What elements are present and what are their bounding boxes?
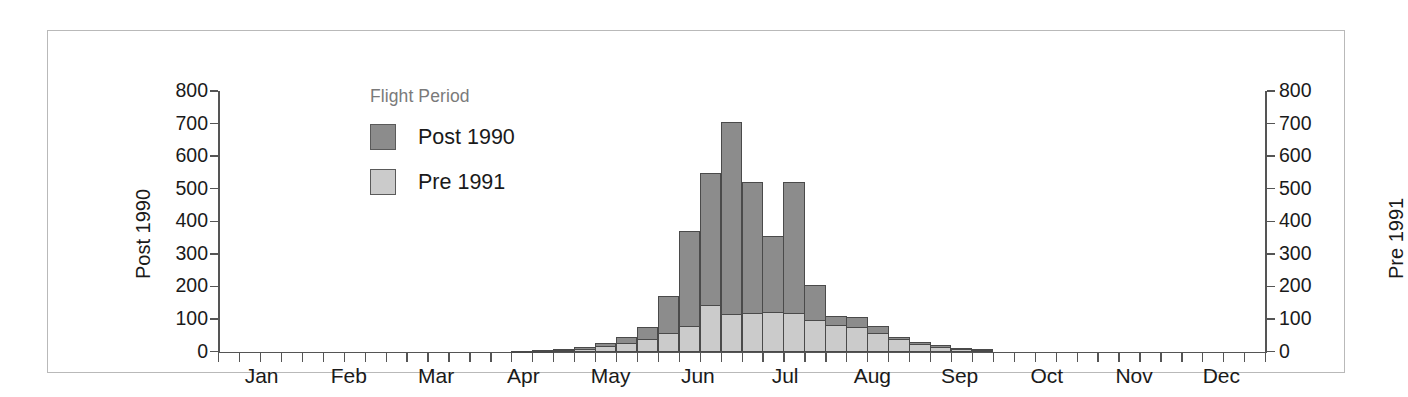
x-axis-tick [1118, 353, 1119, 362]
left-axis-tick-label: 200 [148, 276, 208, 296]
x-axis-month-label: Mar [418, 364, 454, 388]
x-axis-tick [1035, 353, 1036, 362]
x-axis-month-label: Jul [772, 364, 799, 388]
right-axis-tick-label: 400 [1279, 211, 1312, 231]
x-axis-tick [553, 353, 554, 362]
x-axis-month-label: Dec [1203, 364, 1240, 388]
legend-item-pre-1991[interactable]: Pre 1991 [370, 169, 590, 195]
x-axis-tick [281, 353, 282, 362]
right-axis-tick-label: 0 [1279, 342, 1290, 362]
x-axis-month-label: Apr [507, 364, 540, 388]
legend-swatch-pre-1991 [370, 169, 396, 195]
x-axis-tick [386, 353, 387, 362]
x-axis-tick [742, 353, 743, 362]
x-axis-tick [637, 353, 638, 362]
right-axis-tick-label: 500 [1279, 179, 1312, 199]
bar-pre [511, 351, 533, 353]
x-axis-tick [218, 353, 219, 362]
left-axis-tick-label: 600 [148, 146, 208, 166]
x-axis-tick [574, 353, 575, 362]
bar-pre [783, 313, 805, 352]
x-axis-month-label: Aug [854, 364, 891, 388]
x-axis-month-label: May [591, 364, 631, 388]
x-axis-month-label: Jun [681, 364, 715, 388]
left-axis-tick [210, 253, 218, 254]
left-axis-tick-label: 0 [148, 342, 208, 362]
bar-pre [700, 305, 722, 352]
x-axis-tick [783, 353, 784, 362]
left-axis-tick [210, 318, 218, 319]
x-axis-tick [1097, 353, 1098, 362]
x-axis-tick [993, 353, 994, 362]
left-axis-tick-label: 500 [148, 179, 208, 199]
x-axis-tick [804, 353, 805, 362]
x-axis-tick [595, 353, 596, 362]
left-axis-tick-label: 100 [148, 309, 208, 329]
x-axis-tick [972, 353, 973, 362]
left-axis-tick-label: 300 [148, 244, 208, 264]
right-axis-tick [1267, 123, 1275, 124]
legend-label-pre-1991: Pre 1991 [418, 170, 505, 195]
x-axis-tick [532, 353, 533, 362]
bar-pre [888, 339, 910, 351]
left-axis-line [218, 91, 220, 353]
right-axis-tick-label: 800 [1279, 81, 1312, 101]
x-axis-tick [616, 353, 617, 362]
x-axis-tick [1160, 353, 1161, 362]
x-axis-tick [679, 353, 680, 362]
left-axis-tick-label: 800 [148, 81, 208, 101]
right-axis-tick [1267, 155, 1275, 156]
x-axis-tick [490, 353, 491, 362]
bar-pre [930, 347, 952, 352]
x-axis-tick [1056, 353, 1057, 362]
bar-pre [742, 313, 764, 351]
legend-swatch-post-1990 [370, 124, 396, 150]
x-axis-tick [909, 353, 910, 362]
left-axis-tick [210, 351, 218, 352]
right-axis-tick-label: 600 [1279, 146, 1312, 166]
bar-pre [595, 346, 617, 351]
chart-legend: Flight Period Post 1990 Pre 1991 [370, 86, 590, 214]
chart-plot-area: Post 1990 Pre 1991 001001002002003003004… [48, 31, 1344, 372]
x-axis-tick [658, 353, 659, 362]
x-axis-tick [448, 353, 449, 362]
bar-pre [972, 350, 994, 352]
x-axis-tick [721, 353, 722, 362]
x-axis-month-label: Nov [1115, 364, 1152, 388]
left-axis-tick [210, 286, 218, 287]
right-axis-title: Pre 1991 [1385, 198, 1408, 279]
right-axis-tick-label: 700 [1279, 114, 1312, 134]
left-axis-tick-label: 400 [148, 211, 208, 231]
x-axis-tick [951, 353, 952, 362]
bar-pre [867, 333, 889, 351]
left-axis-title: Post 1990 [132, 189, 155, 279]
x-axis-month-label: Feb [331, 364, 367, 388]
x-axis-tick [365, 353, 366, 362]
bar-pre [804, 320, 826, 351]
right-axis-tick [1267, 188, 1275, 189]
x-axis-month-label: Jan [245, 364, 279, 388]
bar-pre [553, 350, 575, 352]
bar-pre [616, 343, 638, 351]
right-axis-tick [1267, 318, 1275, 319]
x-axis-tick [1202, 353, 1203, 362]
x-axis-tick [406, 353, 407, 362]
bar-pre [679, 326, 701, 352]
x-axis-tick [700, 353, 701, 362]
legend-item-post-1990[interactable]: Post 1990 [370, 124, 590, 150]
x-axis-tick [930, 353, 931, 362]
x-axis-tick [323, 353, 324, 362]
right-axis-tick [1267, 253, 1275, 254]
x-axis-tick [239, 353, 240, 362]
bar-pre [762, 312, 784, 352]
x-axis-tick [1244, 353, 1245, 362]
bar-pre [951, 349, 973, 352]
x-axis-tick [1265, 353, 1266, 362]
right-axis-line [1265, 91, 1267, 353]
bar-pre [846, 327, 868, 351]
x-axis-tick [1014, 353, 1015, 362]
right-axis-tick-label: 300 [1279, 244, 1312, 264]
left-axis-tick [210, 123, 218, 124]
legend-label-post-1990: Post 1990 [418, 125, 515, 150]
x-axis-tick [1223, 353, 1224, 362]
